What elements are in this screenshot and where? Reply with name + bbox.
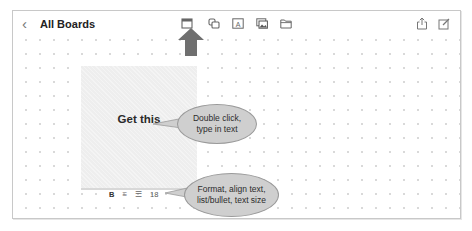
list-icon: ☰ [135,190,142,199]
callout-line: list/bullet, text size [197,195,266,206]
bold-button[interactable]: B [109,190,114,199]
callout-format: Format, align text, list/bullet, text si… [184,173,279,217]
top-bar: ‹ All Boards A [13,11,460,37]
align-text-button[interactable]: ≡ [122,190,127,199]
media-icon [256,18,268,29]
page-title: All Boards [40,18,95,30]
callout-line: Double click, [193,113,241,124]
chevron-left-icon: ‹ [22,15,27,32]
files-button[interactable] [280,18,292,29]
format-toolbar: B ≡ ☰ 18 [109,188,158,200]
up-arrow-annotation-icon [178,28,204,56]
text-size-button[interactable]: 18 [150,190,158,199]
back-button[interactable]: ‹ [22,15,27,32]
text-box-icon: A [232,18,244,29]
list-bullet-button[interactable]: ☰ [135,190,142,199]
media-button[interactable] [256,18,268,29]
share-icon [416,17,428,30]
edit-button[interactable] [438,17,450,30]
share-button[interactable] [416,17,428,30]
callout-line: type in text [193,124,241,135]
shapes-icon [208,18,220,29]
text-box-button[interactable]: A [232,18,244,29]
edit-icon [438,17,450,30]
align-center-icon: ≡ [122,190,127,199]
callout-double-click: Double click, type in text [177,104,257,144]
svg-text:A: A [236,21,241,28]
callout-line: Format, align text, [197,184,266,195]
board-canvas[interactable]: ‹ All Boards A Get this [12,10,461,219]
folder-icon [280,18,292,29]
shapes-button[interactable] [208,18,220,29]
